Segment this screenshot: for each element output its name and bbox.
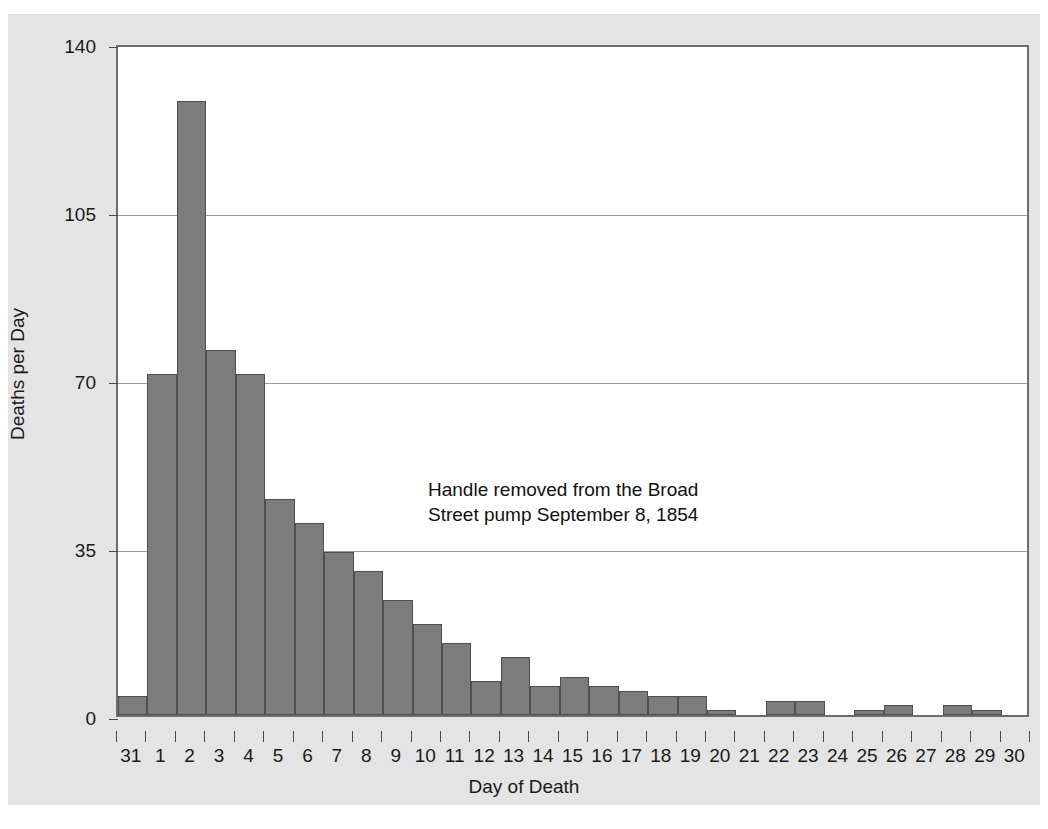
x-axis-tick [145, 731, 146, 742]
bar [295, 523, 324, 715]
bar [678, 696, 707, 715]
x-axis-tick-label: 23 [798, 745, 819, 767]
plot-area: 03570105140 [116, 45, 1029, 717]
x-axis-tick [558, 731, 559, 742]
x-axis-tick [528, 731, 529, 742]
x-axis-tick-label: 1 [155, 745, 166, 767]
x-axis-tick-label: 5 [273, 745, 284, 767]
x-axis-tick [970, 731, 971, 742]
bar [766, 701, 795, 715]
x-axis-tick [941, 731, 942, 742]
x-axis-tick-label: 3 [214, 745, 225, 767]
x-axis-tick-label: 14 [532, 745, 553, 767]
y-axis-tick-label: 105 [36, 204, 96, 226]
y-axis-tick [109, 47, 118, 48]
x-axis-tick-label: 13 [503, 745, 524, 767]
x-axis-tick [617, 731, 618, 742]
x-axis-tick-label: 20 [709, 745, 730, 767]
bar [972, 710, 1001, 715]
x-axis-tick-label: 27 [915, 745, 936, 767]
bar [854, 710, 883, 715]
x-axis-tick [116, 731, 117, 742]
x-axis-tick [499, 731, 500, 742]
x-axis-tick-label: 29 [974, 745, 995, 767]
x-axis-tick [646, 731, 647, 742]
x-axis-tick-label: 21 [739, 745, 760, 767]
bar [265, 499, 294, 715]
x-axis-tick-label: 24 [827, 745, 848, 767]
x-axis-tick-label: 18 [650, 745, 671, 767]
x-axis-tick [1000, 731, 1001, 742]
y-axis-label: Deaths per Day [7, 308, 29, 440]
bar [560, 677, 589, 715]
x-axis-tick-label: 7 [332, 745, 343, 767]
bar [795, 701, 824, 715]
bar [707, 710, 736, 715]
bar [442, 643, 471, 715]
bar [530, 686, 559, 715]
x-axis-tick-label: 17 [621, 745, 642, 767]
x-axis-tick [705, 731, 706, 742]
x-axis-tick-label: 10 [415, 745, 436, 767]
x-axis-tick [882, 731, 883, 742]
x-axis-tick-label: 11 [445, 745, 465, 767]
y-axis-tick [109, 551, 118, 552]
y-axis-tick-label: 140 [36, 36, 96, 58]
x-axis-tick-label: 12 [474, 745, 495, 767]
x-axis-tick-label: 15 [562, 745, 583, 767]
x-axis-tick [411, 731, 412, 742]
bar [501, 657, 530, 715]
x-axis-tick [234, 731, 235, 742]
y-axis-tick-label: 0 [36, 708, 96, 730]
bar [118, 696, 147, 715]
bar [354, 571, 383, 715]
bar [177, 101, 206, 715]
x-axis-label: Day of Death [8, 776, 1040, 798]
bar [943, 705, 972, 715]
y-axis-tick [109, 383, 118, 384]
x-axis-tick [764, 731, 765, 742]
x-axis-tick [1029, 731, 1030, 742]
x-axis-tick-label: 19 [680, 745, 701, 767]
bar [324, 552, 353, 715]
x-axis-tick [440, 731, 441, 742]
bar [884, 705, 913, 715]
y-axis-tick-label: 70 [36, 372, 96, 394]
x-axis-tick [911, 731, 912, 742]
bar [147, 374, 176, 715]
x-axis-tick-label: 25 [856, 745, 877, 767]
x-axis-tick [793, 731, 794, 742]
x-axis-tick-label: 26 [886, 745, 907, 767]
bar [589, 686, 618, 715]
x-axis-tick [175, 731, 176, 742]
x-axis-tick-label: 22 [768, 745, 789, 767]
x-axis-tick [352, 731, 353, 742]
y-axis-tick [109, 215, 118, 216]
x-axis-tick-label: 30 [1004, 745, 1025, 767]
x-axis-tick [469, 731, 470, 742]
x-axis-tick-label: 9 [390, 745, 401, 767]
x-axis-tick [293, 731, 294, 742]
x-axis-tick [852, 731, 853, 742]
x-axis-tick [734, 731, 735, 742]
x-axis-tick-label: 4 [243, 745, 254, 767]
x-axis-tick [204, 731, 205, 742]
chart-annotation: Handle removed from the Broad Street pum… [428, 477, 698, 527]
bar [236, 374, 265, 715]
x-axis-tick [263, 731, 264, 742]
bar [383, 600, 412, 715]
x-axis-tick [676, 731, 677, 742]
x-axis-tick-label: 8 [361, 745, 372, 767]
y-axis-tick [109, 719, 118, 720]
bar-series [118, 47, 1027, 715]
x-axis-tick-label: 2 [184, 745, 195, 767]
bar [206, 350, 235, 715]
y-axis-tick-label: 35 [36, 540, 96, 562]
x-axis-tick [322, 731, 323, 742]
x-axis-tick [587, 731, 588, 742]
x-axis-tick-label: 28 [945, 745, 966, 767]
x-axis-tick-label: 16 [591, 745, 612, 767]
bar [648, 696, 677, 715]
chart-figure: Deaths per Day 03570105140 Handle remove… [8, 14, 1040, 805]
bar [471, 681, 500, 715]
